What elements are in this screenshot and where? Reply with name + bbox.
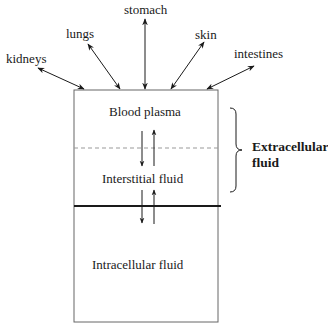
- extracellular-brace-icon: [230, 108, 242, 192]
- group-label-extracellular-fluid: Extracellular fluid: [252, 139, 328, 170]
- organ-label-intestines: intestines: [234, 47, 283, 60]
- group-label-line2: fluid: [252, 155, 328, 171]
- skin-arrow-icon: [171, 42, 204, 89]
- organ-label-kidneys: kidneys: [6, 52, 46, 65]
- lungs-arrow-icon: [88, 44, 120, 89]
- organ-label-skin: skin: [195, 28, 217, 41]
- group-label-line1: Extracellular: [252, 139, 328, 155]
- kidneys-arrow-icon: [38, 68, 84, 89]
- compartment-label-blood-plasma: Blood plasma: [109, 105, 181, 118]
- organ-label-stomach: stomach: [124, 3, 167, 16]
- compartment-label-intracellular-fluid: Intracellular fluid: [92, 258, 183, 271]
- compartment-label-interstitial-fluid: Interstitial fluid: [102, 172, 183, 185]
- organ-label-lungs: lungs: [66, 27, 94, 40]
- intestines-arrow-icon: [207, 66, 254, 89]
